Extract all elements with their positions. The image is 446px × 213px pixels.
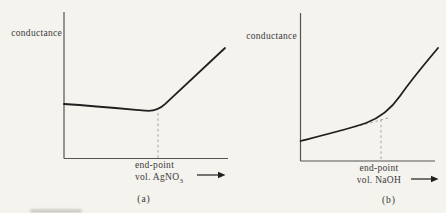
chart-a-x-arrow-head (218, 172, 226, 178)
chart-b (301, 13, 439, 182)
titration-conductance-figure: conductance end-point vol. AgNO3 (a) con… (0, 0, 446, 213)
chart-b-x-arrow-head (431, 176, 439, 182)
chart-a-conductance-curve (64, 48, 225, 111)
chart-b-caption: (b) (367, 195, 411, 207)
chart-a (64, 12, 228, 178)
chart-a-caption: (a) (122, 194, 166, 206)
chart-b-conductance-curve (301, 48, 439, 141)
chart-a-y-axis-label: conductance (6, 28, 62, 40)
chart-a-volume-label-subscript: 3 (179, 176, 183, 184)
chart-a-endpoint-label: end-point vol. AgNO3 (135, 160, 205, 187)
chart-b-volume-label: vol. NaOH (337, 175, 421, 190)
chart-a-volume-label: vol. AgNO3 (135, 172, 205, 187)
chart-b-y-axis-label: conductance (240, 31, 297, 43)
chart-a-volume-label-text: vol. AgNO (135, 172, 179, 182)
chart-b-endpoint-label: end-point vol. NaOH (337, 163, 421, 190)
chart-a-endpoint-label-line1: end-point (135, 160, 205, 172)
chart-b-volume-label-text: vol. NaOH (357, 175, 401, 185)
chart-b-endpoint-label-line1: end-point (337, 163, 421, 175)
cropped-text-artifact (30, 209, 82, 213)
